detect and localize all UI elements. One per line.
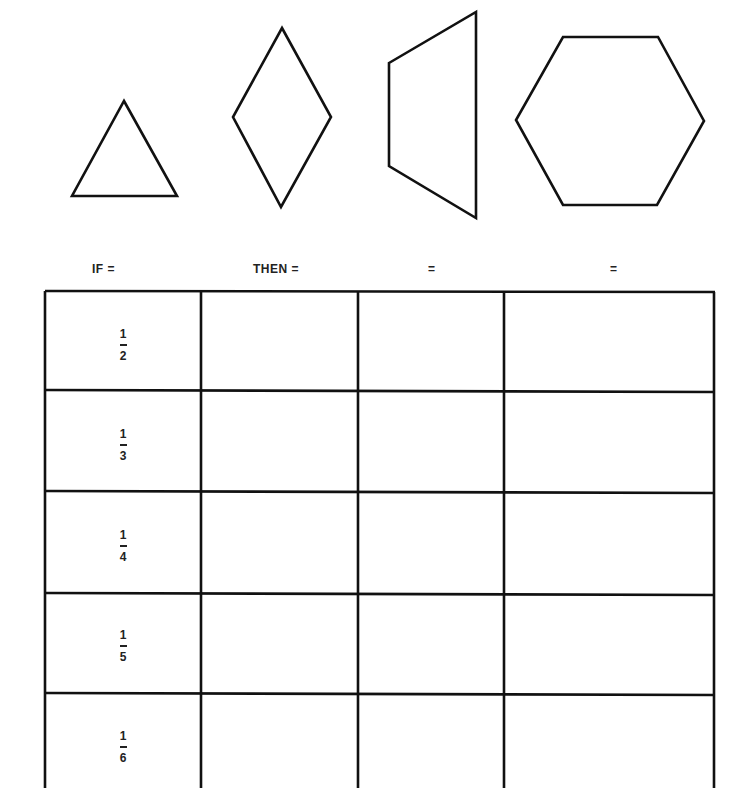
fraction-one-half: 1 2 [103, 328, 143, 363]
fraction-one-sixth: 1 6 [103, 730, 143, 765]
denominator: 3 [103, 450, 143, 463]
denominator: 2 [103, 350, 143, 363]
numerator: 1 [103, 529, 143, 542]
numerator: 1 [103, 629, 143, 642]
fraction-bar [120, 645, 127, 647]
fraction-one-fifth: 1 5 [103, 629, 143, 664]
numerator: 1 [103, 428, 143, 441]
fraction-one-third: 1 3 [103, 428, 143, 463]
denominator: 6 [103, 752, 143, 765]
fraction-table-grid [0, 0, 748, 788]
numerator: 1 [103, 730, 143, 743]
fraction-bar [120, 444, 127, 446]
fraction-one-fourth: 1 4 [103, 529, 143, 564]
denominator: 4 [103, 551, 143, 564]
numerator: 1 [103, 328, 143, 341]
denominator: 5 [103, 651, 143, 664]
fraction-bar [120, 344, 127, 346]
fraction-bar [120, 545, 127, 547]
fraction-bar [120, 746, 127, 748]
